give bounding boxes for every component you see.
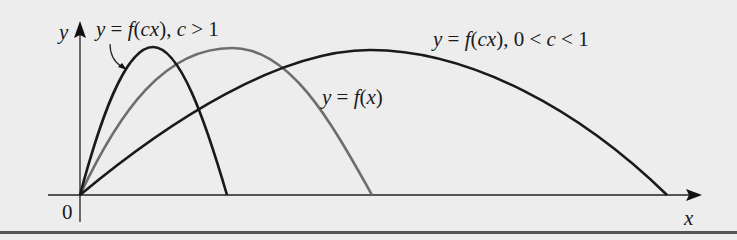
pointer-arrowhead-icon bbox=[118, 63, 127, 70]
x-axis-label: x bbox=[684, 208, 693, 229]
label-f-x: y = f(x) bbox=[322, 87, 383, 108]
curve-f-cx-c-gt-1 bbox=[80, 47, 227, 195]
curve-f-cx-c-lt-1 bbox=[80, 50, 667, 195]
pointer-arrow bbox=[110, 44, 122, 67]
label-c-gt-1: y = f(cx), c > 1 bbox=[96, 19, 219, 40]
y-axis-label: y bbox=[59, 22, 68, 43]
bottom-rule bbox=[0, 231, 737, 234]
origin-label: 0 bbox=[62, 202, 73, 223]
label-c-lt-1: y = f(cx), 0 < c < 1 bbox=[433, 29, 589, 50]
